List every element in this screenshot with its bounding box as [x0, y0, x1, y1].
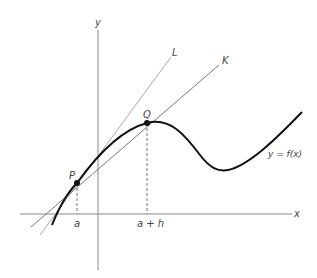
- point-P-label: P: [69, 171, 75, 181]
- tick-a-label: a: [74, 219, 80, 229]
- line-L-label: L: [172, 48, 178, 58]
- point-Q-label: Q: [143, 110, 151, 120]
- line-K-label: K: [222, 56, 229, 66]
- secant-line-K: [31, 65, 219, 227]
- diagram-canvas: [0, 0, 317, 278]
- point-Q: [144, 120, 150, 126]
- curve-label: y = f(x): [268, 150, 302, 159]
- x-axis-label: x: [294, 209, 300, 219]
- tick-a-plus-h-label: a + h: [137, 219, 164, 229]
- y-axis-label: y: [95, 18, 101, 28]
